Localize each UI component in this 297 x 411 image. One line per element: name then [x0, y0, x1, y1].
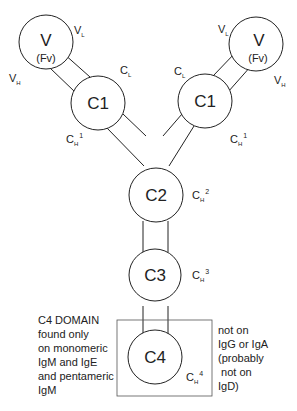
svg-text:VL: VL [218, 23, 229, 37]
note-not-on: not on IgG or IgA (probably not on IgD) [218, 324, 269, 392]
svg-text:V: V [40, 31, 52, 50]
svg-text:on monomeric: on monomeric [38, 342, 108, 354]
antibody-domain-diagram: V (Fv) C1 V (Fv) C1 C2 C3 C4 VL VH CL CH… [0, 0, 297, 411]
domain-c3: C3 [129, 249, 181, 301]
domain-v-right: V (Fv) [229, 17, 283, 71]
svg-text:C4: C4 [144, 348, 166, 367]
label-ch4: CH4 [186, 370, 203, 385]
label-vl-right: VL [218, 23, 229, 37]
svg-text:(Fv): (Fv) [248, 52, 268, 64]
domain-c2: C2 [129, 168, 183, 222]
label-vl-left: VL [74, 24, 85, 38]
svg-text:CH1: CH1 [230, 132, 247, 147]
svg-text:found only: found only [38, 328, 89, 340]
svg-text:C2: C2 [145, 186, 167, 205]
label-ch3: CH3 [192, 268, 209, 283]
svg-text:(probably: (probably [218, 352, 264, 364]
svg-text:C1: C1 [194, 92, 216, 111]
domain-c4: C4 [128, 330, 182, 384]
svg-text:VH: VH [274, 74, 286, 88]
svg-text:CL: CL [174, 65, 186, 79]
label-vh-right: VH [274, 74, 286, 88]
svg-text:IgG or IgA: IgG or IgA [218, 338, 269, 350]
svg-text:IgD): IgD) [218, 380, 239, 392]
label-ch1-right: CH1 [230, 132, 247, 147]
svg-text:IgM: IgM [38, 384, 56, 396]
label-ch2: CH2 [192, 188, 209, 203]
label-ch1-left: CH1 [66, 132, 83, 147]
svg-text:CH1: CH1 [66, 132, 83, 147]
note-c4-domain: C4 DOMAIN found only on monomeric IgM an… [38, 314, 114, 396]
svg-text:C1: C1 [87, 94, 109, 113]
svg-text:CL: CL [120, 64, 132, 78]
domain-c1-right: C1 [178, 74, 232, 128]
svg-text:IgM and IgE: IgM and IgE [38, 356, 97, 368]
svg-text:CH4: CH4 [186, 370, 203, 385]
connector-c2-c3 [143, 221, 168, 252]
label-cl-right: CL [174, 65, 186, 79]
domain-c1-left: C1 [71, 76, 125, 130]
label-vh-left: VH [9, 72, 21, 86]
label-cl-left: CL [120, 64, 132, 78]
svg-text:VH: VH [9, 72, 21, 86]
svg-text:CH3: CH3 [192, 268, 209, 283]
domain-v-left: V (Fv) [19, 15, 73, 69]
hinge-arms [106, 114, 194, 166]
svg-text:not on: not on [218, 366, 252, 378]
svg-text:VL: VL [74, 24, 85, 38]
svg-text:V: V [253, 31, 265, 50]
svg-text:C3: C3 [144, 266, 166, 285]
svg-text:and pentameric: and pentameric [38, 370, 114, 382]
svg-text:(Fv): (Fv) [36, 52, 56, 64]
svg-text:not on: not on [218, 324, 249, 336]
svg-text:CH2: CH2 [192, 188, 209, 203]
svg-text:C4 DOMAIN: C4 DOMAIN [38, 314, 99, 326]
